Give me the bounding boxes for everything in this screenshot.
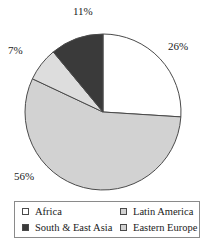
chart-legend: Africa Latin America South & East Asia E… [14, 201, 200, 238]
legend-item-africa: Africa [15, 206, 113, 217]
legend-swatch-south-east-asia [22, 224, 29, 231]
legend-label-south-east-asia: South & East Asia [35, 222, 112, 233]
legend-item-latin-america: Latin America [113, 206, 201, 217]
legend-swatch-africa [22, 208, 29, 215]
slice-label-south-east-asia: 11% [73, 5, 93, 17]
legend-swatch-eastern-europe [120, 224, 127, 231]
legend-label-africa: Africa [35, 206, 62, 217]
pie-slices [25, 34, 181, 190]
pie-plot-area: 11% 26% 7% 56% [0, 0, 216, 196]
legend-swatch-latin-america [120, 208, 127, 215]
legend-item-eastern-europe: Eastern Europe [113, 222, 201, 233]
legend-label-latin-america: Latin America [133, 206, 193, 217]
pie-chart-figure: 11% 26% 7% 56% Africa Latin America Sout… [0, 0, 216, 250]
slice-label-africa: 26% [168, 40, 188, 52]
legend-label-eastern-europe: Eastern Europe [133, 222, 197, 233]
pie-svg [0, 0, 216, 196]
legend-item-south-east-asia: South & East Asia [15, 222, 113, 233]
slice-label-eastern-europe: 7% [8, 44, 23, 56]
slice-label-latin-america: 56% [14, 170, 34, 182]
